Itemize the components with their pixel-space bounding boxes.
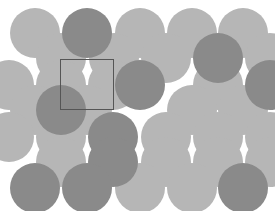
atom-circle-light bbox=[167, 163, 217, 211]
atom-circle-dark bbox=[218, 163, 268, 211]
atom-circle-dark bbox=[10, 163, 60, 211]
atom-circle-dark bbox=[62, 8, 112, 58]
atom-circle-dark bbox=[36, 85, 86, 135]
atom-circle-dark bbox=[62, 163, 112, 211]
sphere-lattice-figure bbox=[0, 0, 275, 211]
atom-circle-dark bbox=[193, 33, 243, 83]
atom-circle-dark bbox=[115, 60, 165, 110]
